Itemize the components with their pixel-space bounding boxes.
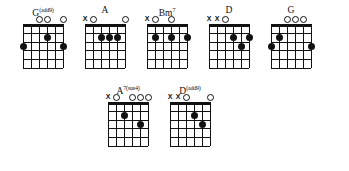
- open-string-marker: [168, 16, 175, 23]
- fret-line: [108, 146, 148, 147]
- finger-dot: [246, 34, 253, 41]
- finger-dot: [191, 112, 198, 119]
- fret-line: [147, 42, 187, 43]
- chord-name-extension: (add9): [39, 7, 53, 13]
- string-line: [249, 24, 250, 68]
- fret-line: [271, 59, 311, 60]
- string-line: [178, 102, 179, 146]
- chord-name-d: D: [198, 6, 260, 15]
- fret-line: [271, 68, 311, 69]
- string-line: [101, 24, 102, 68]
- muted-string-marker: X: [166, 93, 174, 101]
- chord-row-top: G(add9)AXBm7XDXXG: [12, 6, 322, 78]
- fret-line: [147, 68, 187, 69]
- fretboard-grid: [209, 24, 249, 68]
- nut-line: [23, 24, 63, 27]
- string-line: [187, 24, 188, 68]
- muted-string-marker: X: [81, 15, 89, 23]
- chord-name-a: A: [74, 6, 136, 15]
- string-line: [171, 24, 172, 68]
- open-string-marker: [129, 94, 136, 101]
- string-line: [179, 24, 180, 68]
- open-string-marker: [207, 94, 214, 101]
- finger-dot: [98, 34, 105, 41]
- fret-line: [170, 137, 210, 138]
- chord-diagram-g: G: [260, 6, 322, 78]
- open-string-marker: [44, 16, 51, 23]
- chord-name-g: G: [260, 6, 322, 15]
- fretboard-grid: [271, 24, 311, 68]
- muted-string-marker: X: [143, 15, 151, 23]
- muted-string-marker: X: [104, 93, 112, 101]
- fret-line: [209, 68, 249, 69]
- string-line: [132, 102, 133, 146]
- finger-dot: [238, 43, 245, 50]
- open-string-marker: [300, 16, 307, 23]
- fret-line: [108, 128, 148, 129]
- finger-dot: [44, 34, 51, 41]
- open-string-marker: [137, 94, 144, 101]
- finger-dot: [60, 43, 67, 50]
- nut-line: [108, 102, 148, 105]
- open-string-marker: [36, 16, 43, 23]
- string-line: [225, 24, 226, 68]
- finger-dot: [114, 34, 121, 41]
- string-line: [209, 24, 210, 68]
- finger-dot: [137, 121, 144, 128]
- muted-string-marker: X: [205, 15, 213, 23]
- fret-line: [108, 137, 148, 138]
- string-line: [303, 24, 304, 68]
- nut-line: [170, 102, 210, 105]
- open-string-marker: [60, 16, 67, 23]
- fretboard-grid: [147, 24, 187, 68]
- string-line: [31, 24, 32, 68]
- fret-line: [170, 128, 210, 129]
- nut-line: [147, 24, 187, 27]
- string-line: [194, 102, 195, 146]
- string-line: [287, 24, 288, 68]
- fret-line: [209, 33, 249, 34]
- string-line: [233, 24, 234, 68]
- finger-dot: [106, 34, 113, 41]
- fret-line: [85, 68, 125, 69]
- chord-name-extension: (add9): [186, 85, 200, 91]
- string-line: [217, 24, 218, 68]
- chord-markers-g-add9: [23, 15, 63, 23]
- open-string-marker: [122, 16, 129, 23]
- finger-dot: [168, 34, 175, 41]
- fret-line: [23, 59, 63, 60]
- chord-markers-d: XX: [209, 15, 249, 23]
- fret-line: [85, 42, 125, 43]
- fret-line: [147, 50, 187, 51]
- fret-line: [85, 59, 125, 60]
- string-line: [93, 24, 94, 68]
- finger-dot: [20, 43, 27, 50]
- string-line: [147, 24, 148, 68]
- finger-dot: [199, 121, 206, 128]
- chord-name-root: D: [226, 5, 233, 15]
- string-line: [55, 24, 56, 68]
- fretboard-grid: [170, 102, 210, 146]
- fret-line: [271, 42, 311, 43]
- chord-diagram-d-add9: D(add9)XX: [159, 84, 221, 156]
- string-line: [124, 102, 125, 146]
- fret-line: [271, 50, 311, 51]
- muted-string-marker: X: [174, 93, 182, 101]
- string-line: [170, 102, 171, 146]
- open-string-marker: [152, 16, 159, 23]
- nut-line: [209, 24, 249, 27]
- chord-chart-sheet: G(add9)AXBm7XDXXG A7(sus4)XD(add9)XX: [0, 0, 349, 171]
- chord-markers-d-add9: XX: [170, 93, 210, 101]
- chord-diagram-b-minor-7: Bm7X: [136, 6, 198, 78]
- chord-name-extension: 7: [172, 7, 175, 13]
- muted-string-marker: X: [213, 15, 221, 23]
- chord-markers-a7-sus4: X: [108, 93, 148, 101]
- fret-line: [170, 111, 210, 112]
- string-line: [85, 24, 86, 68]
- fret-line: [170, 146, 210, 147]
- string-line: [39, 24, 40, 68]
- finger-dot: [308, 43, 315, 50]
- fret-line: [209, 59, 249, 60]
- fret-line: [147, 59, 187, 60]
- finger-dot: [152, 34, 159, 41]
